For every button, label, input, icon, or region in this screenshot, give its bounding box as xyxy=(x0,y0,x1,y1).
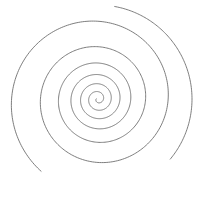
background xyxy=(0,0,201,202)
spiral-figure xyxy=(0,0,201,202)
spiral-canvas xyxy=(0,0,201,202)
